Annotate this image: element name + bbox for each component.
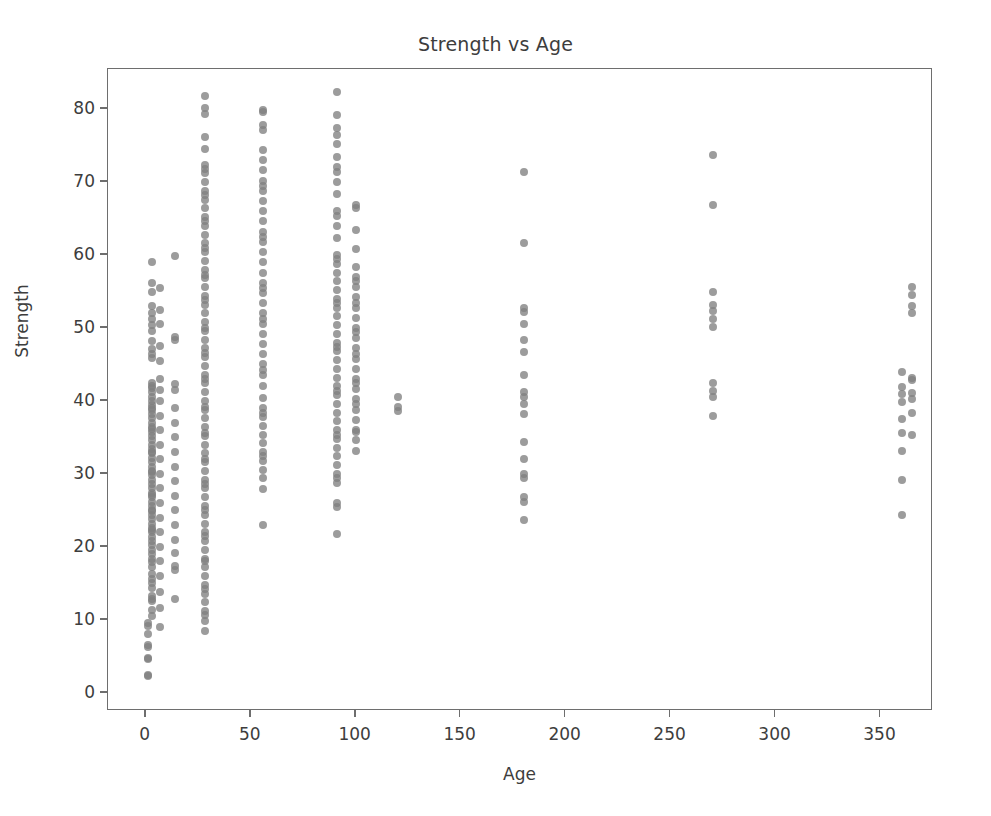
- data-point: [171, 463, 179, 471]
- data-point: [201, 627, 209, 635]
- data-point: [156, 455, 164, 463]
- data-point: [171, 595, 179, 603]
- y-tick-label: 10: [49, 609, 95, 629]
- data-point: [908, 409, 916, 417]
- data-point: [709, 323, 717, 331]
- y-tick-mark: [100, 253, 107, 255]
- data-point: [259, 521, 267, 529]
- data-point: [171, 562, 179, 570]
- data-point: [333, 153, 341, 161]
- data-point: [201, 598, 209, 606]
- data-point: [201, 403, 209, 411]
- y-axis-label-text: Strength: [12, 284, 32, 358]
- data-point: [394, 393, 402, 401]
- data-point: [201, 324, 209, 332]
- x-tick-label: 50: [210, 724, 290, 744]
- data-point: [171, 404, 179, 412]
- data-point: [201, 585, 209, 593]
- data-point: [898, 398, 906, 406]
- data-point: [259, 248, 267, 256]
- data-point: [520, 304, 528, 312]
- data-point: [898, 429, 906, 437]
- data-point: [333, 530, 341, 538]
- data-point: [156, 426, 164, 434]
- data-point: [352, 263, 360, 271]
- data-point: [156, 588, 164, 596]
- data-point: [171, 492, 179, 500]
- y-tick-label: 50: [49, 317, 95, 337]
- data-point: [333, 111, 341, 119]
- data-point: [156, 543, 164, 551]
- data-point: [201, 611, 209, 619]
- data-point: [520, 239, 528, 247]
- data-point: [520, 336, 528, 344]
- data-point: [333, 299, 341, 307]
- data-point: [352, 365, 360, 373]
- data-point: [201, 165, 209, 173]
- data-point: [259, 207, 267, 215]
- data-point: [148, 302, 156, 310]
- y-tick-mark: [100, 545, 107, 547]
- data-point: [520, 410, 528, 418]
- x-tick-mark: [669, 710, 671, 717]
- data-point: [898, 476, 906, 484]
- data-point: [908, 302, 916, 310]
- data-point: [333, 312, 341, 320]
- data-point: [898, 368, 906, 376]
- x-tick-label: 350: [840, 724, 920, 744]
- data-point: [148, 612, 156, 620]
- data-point: [201, 349, 209, 357]
- data-point: [156, 623, 164, 631]
- data-point: [898, 383, 906, 391]
- data-point: [201, 309, 209, 317]
- data-point: [333, 417, 341, 425]
- data-point: [171, 252, 179, 260]
- y-tick-mark: [100, 326, 107, 328]
- data-point: [201, 204, 209, 212]
- data-point: [156, 557, 164, 565]
- data-point: [201, 145, 209, 153]
- y-tick-mark: [100, 107, 107, 109]
- data-point: [333, 400, 341, 408]
- data-point: [171, 448, 179, 456]
- x-tick-label: 300: [735, 724, 815, 744]
- data-point: [333, 356, 341, 364]
- data-point: [709, 315, 717, 323]
- data-point: [333, 374, 341, 382]
- data-point: [908, 389, 916, 397]
- data-point: [520, 320, 528, 328]
- data-point: [259, 485, 267, 493]
- data-point: [156, 284, 164, 292]
- x-tick-label: 100: [315, 724, 395, 744]
- data-point: [201, 244, 209, 252]
- data-point: [259, 439, 267, 447]
- data-point: [520, 493, 528, 501]
- x-axis-label: Age: [107, 764, 932, 784]
- data-point: [333, 277, 341, 285]
- data-point: [201, 532, 209, 540]
- data-point: [156, 604, 164, 612]
- data-point: [259, 258, 267, 266]
- data-point: [333, 461, 341, 469]
- data-point: [333, 124, 341, 132]
- x-tick-label: 250: [630, 724, 710, 744]
- x-tick-mark: [774, 710, 776, 717]
- data-point: [352, 226, 360, 234]
- data-point: [201, 257, 209, 265]
- data-point: [333, 212, 341, 220]
- data-point: [201, 133, 209, 141]
- data-point: [171, 419, 179, 427]
- data-point: [201, 520, 209, 528]
- data-point: [352, 400, 360, 408]
- y-tick-label: 0: [49, 682, 95, 702]
- data-point: [908, 374, 916, 382]
- data-point: [201, 455, 209, 463]
- y-tick-mark: [100, 618, 107, 620]
- data-point: [156, 306, 164, 314]
- data-point: [156, 386, 164, 394]
- data-point: [520, 455, 528, 463]
- data-point: [156, 484, 164, 492]
- data-point: [148, 258, 156, 266]
- data-point: [201, 572, 209, 580]
- y-tick-label: 80: [49, 98, 95, 118]
